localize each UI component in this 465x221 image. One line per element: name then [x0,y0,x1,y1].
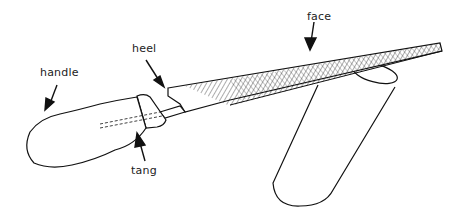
face-arrow-icon [305,38,316,50]
label-handle: handle [40,66,79,79]
label-tang: tang [131,164,157,177]
file-illustration [0,0,465,221]
label-face: face [307,10,331,23]
label-heel: heel [132,42,156,55]
handle-arrow-icon [45,98,54,110]
heel-arrow-icon [154,76,164,87]
file-diagram: handle heel face tang [0,0,465,221]
file-blade [168,43,442,112]
